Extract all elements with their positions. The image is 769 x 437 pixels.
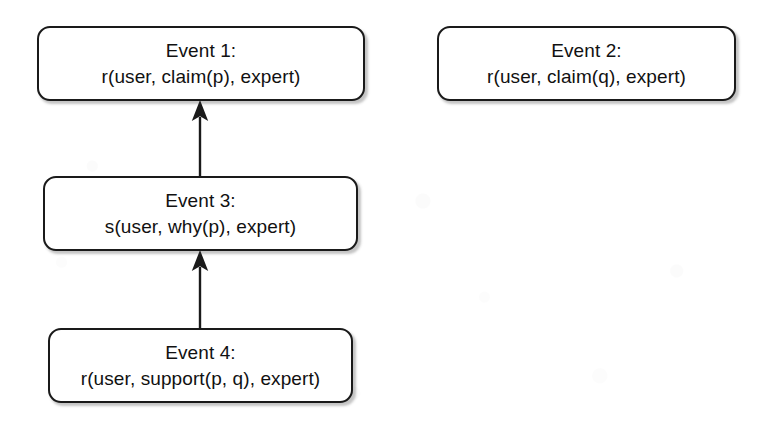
- event-1-body: r(user, claim(p), expert): [102, 64, 301, 89]
- arrow-event4-to-event3: [186, 249, 214, 331]
- event-2-body: r(user, claim(q), expert): [487, 64, 686, 89]
- event-2-title: Event 2:: [551, 38, 622, 63]
- event-3-title: Event 3:: [165, 188, 236, 213]
- event-4-title: Event 4:: [165, 340, 236, 365]
- event-box-event-2[interactable]: Event 2: r(user, claim(q), expert): [437, 26, 736, 101]
- event-4-body: r(user, support(p, q), expert): [81, 366, 321, 391]
- diagram-canvas: Event 1: r(user, claim(p), expert) Event…: [0, 0, 769, 437]
- event-box-event-1[interactable]: Event 1: r(user, claim(p), expert): [37, 26, 365, 101]
- event-box-event-4[interactable]: Event 4: r(user, support(p, q), expert): [48, 328, 353, 403]
- event-3-body: s(user, why(p), expert): [105, 214, 296, 239]
- arrow-event3-to-event1: [186, 99, 214, 179]
- event-box-event-3[interactable]: Event 3: s(user, why(p), expert): [43, 176, 358, 251]
- event-1-title: Event 1:: [166, 38, 237, 63]
